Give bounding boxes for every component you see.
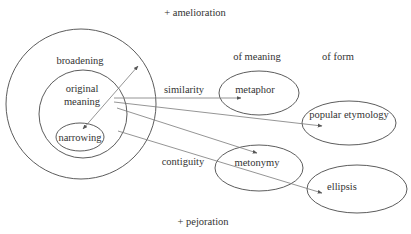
contiguity-label: contiguity [162,156,205,167]
popular-etymology-label: popular etymology [309,109,389,120]
of-meaning-header: of meaning [233,51,281,62]
of-form-header: of form [322,51,354,62]
arrow-to-metonymy [117,108,257,153]
amelioration-label: + amelioration [164,7,226,18]
original-label-line2: meaning [64,96,101,107]
arrow-to-ellipsis [118,131,322,193]
arrow-to-popular-etymology [114,102,322,126]
ellipsis-label: ellipsis [327,181,357,192]
similarity-label: similarity [164,84,205,95]
broadening-label: broadening [56,55,104,66]
metaphor-label: metaphor [235,84,275,95]
ellipsis-ellipse [307,165,407,213]
original-label-line1: original [66,83,99,94]
metonymy-ellipse [215,145,303,191]
pejoration-label: + pejoration [177,216,229,227]
semantic-change-diagram: + amelioration + pejoration of meaning o… [0,0,411,234]
metonymy-label: metonymy [235,157,281,168]
popular-etymology-ellipse [302,101,396,145]
narrowing-label: narrowing [58,132,102,143]
